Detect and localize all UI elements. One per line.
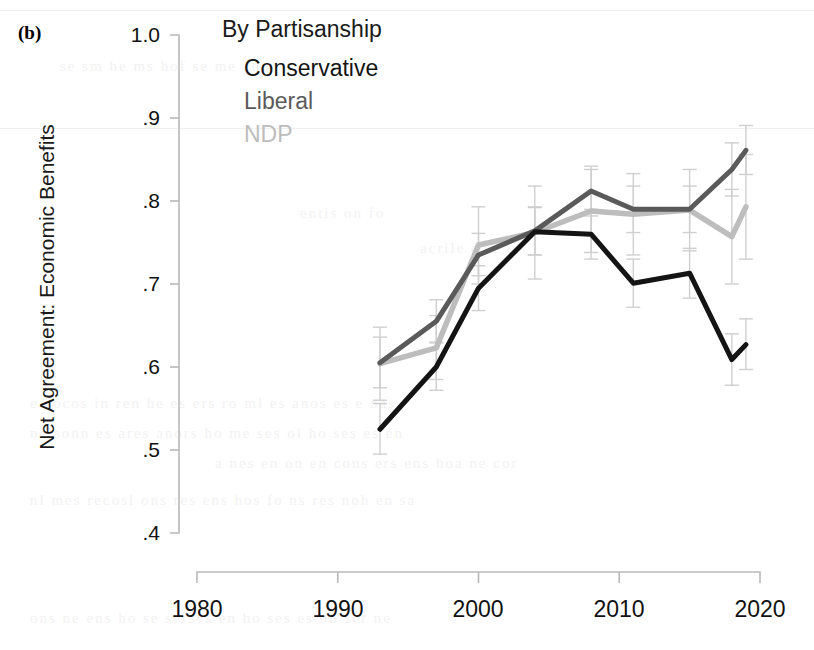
figure-panel-b: (b) Net Agreement: Economic Benefits 1.0…	[0, 0, 814, 650]
x-axis-ticks	[338, 572, 620, 583]
plot-area	[0, 0, 814, 650]
series-line-liberal	[380, 150, 746, 362]
series-line-ndp	[380, 207, 746, 364]
series-layer	[380, 150, 746, 429]
y-axis-ticks	[170, 118, 179, 450]
series-line-conservative	[380, 232, 746, 430]
